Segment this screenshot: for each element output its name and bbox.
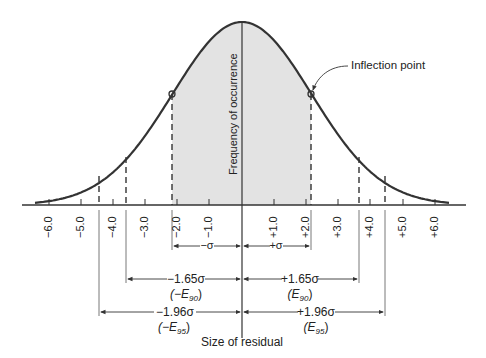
- x-tick-label: −5.0: [74, 216, 86, 238]
- diagram-graphics: [0, 0, 486, 358]
- x-tick-label: +4.0: [363, 216, 375, 238]
- inflection-point-label: Inflection point: [351, 59, 425, 71]
- y-axis-label: Frequency of occurrence: [227, 53, 239, 175]
- inflection-leader-arrow: [313, 66, 348, 90]
- x-tick-label: +6.0: [428, 216, 440, 238]
- x-tick-label: −1.0: [202, 216, 214, 238]
- minus-sigma-label: −σ: [200, 239, 213, 251]
- x-tick-label: −3.0: [138, 216, 150, 238]
- neg-e95-label: (−E95): [158, 320, 190, 336]
- plus-165-sigma-label: +1.65σ: [281, 272, 319, 286]
- x-tick-label: +1.0: [267, 216, 279, 238]
- x-tick-label: −2.0: [170, 216, 182, 238]
- e90-label: (E90): [288, 287, 313, 303]
- x-tick-label: +3.0: [331, 216, 343, 238]
- x-tick-label: −6.0: [42, 216, 54, 238]
- x-axis-label: Size of residual: [201, 335, 283, 349]
- x-tick-label: +2.0: [299, 216, 311, 238]
- e95-label: (E95): [304, 320, 329, 336]
- x-tick-label: −4.0: [106, 216, 118, 238]
- minus-196-sigma-label: −1.96σ: [156, 305, 194, 319]
- normal-distribution-diagram: Frequency of occurrence Inflection point…: [0, 0, 486, 358]
- neg-e90-label: (−E90): [170, 287, 202, 303]
- plus-196-sigma-label: +1.96σ: [297, 305, 335, 319]
- plus-sigma-label: +σ: [269, 239, 282, 251]
- x-tick-label: +5.0: [396, 216, 408, 238]
- minus-165-sigma-label: −1.65σ: [167, 272, 205, 286]
